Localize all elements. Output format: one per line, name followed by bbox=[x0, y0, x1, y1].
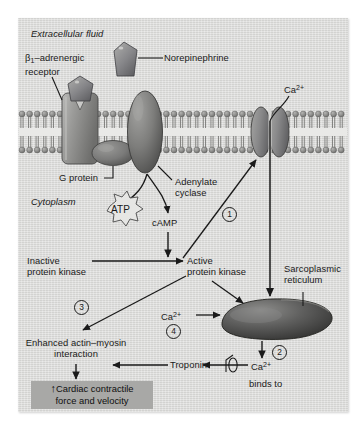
step-3-marker: 3 bbox=[74, 300, 89, 315]
step-2-marker: 2 bbox=[272, 345, 287, 360]
arrow-ac-to-camp bbox=[147, 174, 168, 213]
g-protein-label: G protein bbox=[59, 172, 98, 183]
ca-membrane-label: Ca2+ bbox=[284, 82, 304, 95]
arrow-kinase-to-channel bbox=[183, 160, 256, 258]
norepinephrine-ligand bbox=[114, 42, 137, 76]
binds-to-label: binds to bbox=[249, 378, 282, 389]
bound-norepinephrine bbox=[68, 76, 93, 101]
result-text: ↑Cardiac contractile force and velocity bbox=[31, 383, 153, 406]
inactive-protein-kinase-label: Inactive protein kinase bbox=[27, 255, 86, 278]
cytoplasm-label: Cytoplasm bbox=[31, 196, 76, 207]
sarcoplasmic-reticulum-label: Sarcoplasmic reticulum bbox=[284, 263, 341, 286]
receptor-label-line1: β1–adrenergic bbox=[25, 52, 84, 63]
step-1-marker: 1 bbox=[222, 207, 237, 222]
norepinephrine-label: Norepinephrine bbox=[164, 52, 229, 63]
atp-label: ATP bbox=[111, 204, 130, 215]
ca-released-label: Ca2+ bbox=[251, 359, 271, 372]
sarcoplasmic-reticulum bbox=[222, 299, 332, 340]
camp-label: cAMP bbox=[152, 217, 177, 228]
adenylate-cyclase-label: Adenylate cyclase bbox=[175, 176, 217, 199]
figure-canvas: Extracellular fluid Norepinephrine β1–ad… bbox=[0, 0, 364, 436]
g-protein bbox=[92, 141, 134, 166]
step-4-marker: 4 bbox=[166, 324, 181, 339]
ca-cytosolic-label: Ca2+ bbox=[161, 309, 181, 322]
leader-adenylate-cyclase bbox=[158, 166, 172, 180]
enhanced-actin-myosin-label: Enhanced actin–myosin interaction bbox=[12, 337, 140, 360]
active-protein-kinase-label: Active protein kinase bbox=[187, 255, 246, 278]
receptor-label: β1–adrenergic receptor bbox=[25, 52, 84, 78]
leader-g-protein bbox=[104, 166, 113, 178]
troponin-label: Troponin bbox=[170, 359, 207, 370]
extracellular-fluid-label: Extracellular fluid bbox=[31, 28, 103, 39]
receptor-label-line2: receptor bbox=[25, 66, 60, 77]
adenylate-cyclase bbox=[128, 91, 163, 173]
leader-receptor bbox=[52, 77, 62, 100]
arrow-kinase-to-sr bbox=[212, 281, 243, 303]
